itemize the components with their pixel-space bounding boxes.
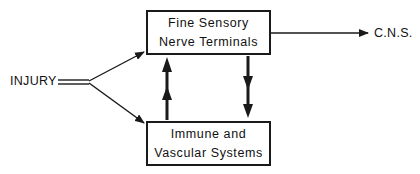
immune-vascular-systems-box: Immune and Vascular Systems <box>146 121 271 166</box>
arrow-injury-to-immune <box>89 83 144 123</box>
injury-double-line <box>58 80 89 84</box>
sensory-nerve-terminals-box: Fine Sensory Nerve Terminals <box>146 10 271 55</box>
arrow-immune-to-sensory <box>162 57 172 120</box>
injury-label: INJURY <box>10 74 57 88</box>
box-line: Vascular Systems <box>154 144 263 163</box>
box-line: Fine Sensory <box>168 14 249 33</box>
arrow-sensory-to-immune <box>243 56 253 118</box>
cns-label: C.N.S. <box>374 26 413 40</box>
box-line: Nerve Terminals <box>159 33 258 52</box>
box-line: Immune and <box>171 125 246 144</box>
arrow-injury-to-sensory <box>89 52 144 81</box>
